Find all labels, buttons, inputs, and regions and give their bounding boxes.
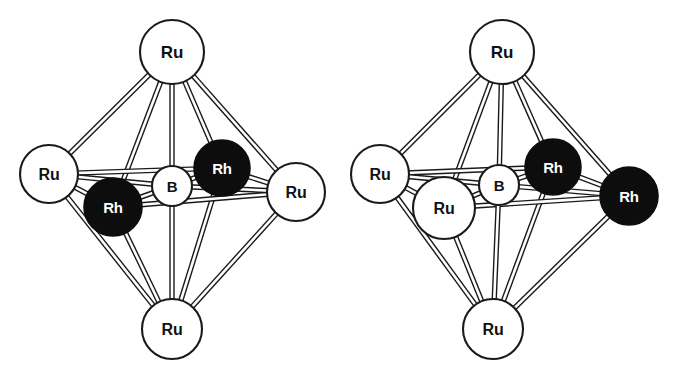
atom-label: Ru [491, 43, 513, 62]
cluster-diagram-canvas: RuRuRhRhRuRuB RuRuRuRhRhRuB [0, 0, 684, 373]
atom-ru-open: Ru [470, 20, 534, 84]
atom-ru-open: Ru [463, 299, 523, 359]
atom-ru-open: Ru [20, 145, 78, 203]
atom-label: Rh [212, 160, 232, 177]
atom-rh-filled: Rh [194, 140, 250, 196]
atom-label: Rh [103, 199, 123, 216]
atom-label: B [167, 178, 178, 195]
molecular-structure-figure: RuRuRhRhRuRuB RuRuRuRhRhRuB [0, 0, 684, 373]
atom-label: Ru [483, 321, 504, 338]
atom-label: Ru [434, 200, 455, 217]
bond [499, 80, 501, 169]
atom-ru-open: Ru [140, 20, 204, 84]
atom-label: Ru [370, 166, 391, 183]
atom-ru-open: Ru [142, 299, 202, 359]
atom-rh-filled: Rh [84, 178, 142, 236]
atom-ru-open: Ru [351, 145, 409, 203]
atom-label: Rh [619, 188, 639, 205]
atom-rh-filled: Rh [600, 167, 658, 225]
atom-label: Rh [543, 159, 563, 176]
atom-rh-filled: Rh [525, 139, 581, 195]
atom-b-open: B [152, 166, 192, 206]
atom-label: Ru [161, 43, 183, 62]
atom-label: Ru [162, 321, 183, 338]
atom-ru-open: Ru [413, 177, 475, 239]
atom-b-open: B [479, 165, 519, 205]
atom-ru-open: Ru [267, 163, 325, 221]
atom-label: Ru [39, 166, 60, 183]
atom-label: B [494, 177, 505, 194]
atom-label: Ru [286, 184, 307, 201]
